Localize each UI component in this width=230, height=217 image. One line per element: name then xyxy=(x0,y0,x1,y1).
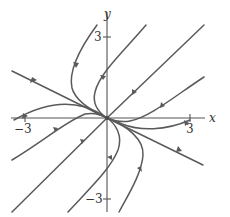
x-axis-label: x xyxy=(209,111,216,125)
arrow-icon xyxy=(176,146,182,152)
trajectory-left-curve-lower xyxy=(12,113,107,160)
x-tick-label-neg3: −3 xyxy=(14,122,32,136)
arrow-icon xyxy=(107,155,112,160)
phase-portrait-figure: y x 3 −3 −3 3 xyxy=(0,0,230,217)
trajectory-bottom-right-curve xyxy=(107,118,143,212)
y-tick-label-neg3: −3 xyxy=(85,192,103,206)
y-tick-label-3: 3 xyxy=(94,30,102,44)
axes xyxy=(11,12,205,212)
equilibrium-point xyxy=(105,116,109,120)
trajectory-upper-right-line xyxy=(107,25,204,118)
y-axis-label: y xyxy=(103,7,111,21)
trajectory-upper-mid-curve xyxy=(94,25,146,118)
